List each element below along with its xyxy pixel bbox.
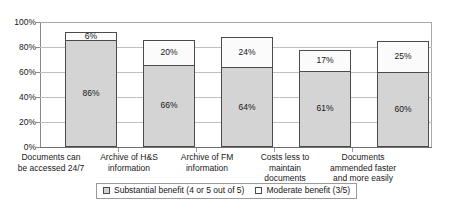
bar-group-archive-fm[interactable]: 24% 64% bbox=[221, 37, 273, 147]
x-category-line: Costs less to bbox=[242, 152, 328, 163]
bar-value-moderate: 25% bbox=[394, 52, 411, 61]
bar-segment-moderate[interactable]: 17% bbox=[299, 50, 351, 71]
legend-swatch-icon bbox=[103, 187, 110, 194]
x-category-line: Archive of FM bbox=[164, 152, 250, 163]
x-category-label-documents-accessed: Documents can be accessed 24/7 bbox=[8, 152, 94, 173]
stacked-bar-chart: 100% 80% 60% 40% 20% 0% 6% 86% bbox=[0, 0, 451, 210]
x-category-line: and more easily bbox=[320, 173, 406, 184]
bar-value-moderate: 24% bbox=[238, 48, 255, 57]
x-category-label-costs-less: Costs less to maintain documents bbox=[242, 152, 328, 184]
bar-value-substantial: 61% bbox=[316, 104, 333, 113]
legend-item-substantial[interactable]: Substantial benefit (4 or 5 out of 5) bbox=[103, 186, 244, 195]
bar-segment-substantial[interactable]: 86% bbox=[65, 40, 117, 148]
y-axis: 100% 80% 60% 40% 20% 0% bbox=[0, 0, 36, 210]
legend-swatch-icon bbox=[255, 187, 262, 194]
bar-value-moderate: 20% bbox=[160, 48, 177, 57]
y-tick-label-40: 40% bbox=[19, 93, 36, 102]
bar-segment-substantial[interactable]: 61% bbox=[299, 71, 351, 147]
bar-segment-moderate[interactable]: 6% bbox=[65, 32, 117, 40]
bar-segment-substantial[interactable]: 66% bbox=[143, 65, 195, 148]
bar-group-documents-ammended[interactable]: 25% 60% bbox=[377, 41, 429, 147]
bar-value-substantial: 60% bbox=[394, 105, 411, 114]
plot-area: 6% 86% 20% 66% 24% 64% bbox=[40, 22, 432, 147]
legend-item-label: Substantial benefit (4 or 5 out of 5) bbox=[114, 186, 244, 195]
chart-legend: Substantial benefit (4 or 5 out of 5) Mo… bbox=[96, 183, 357, 199]
x-category-line: be accessed 24/7 bbox=[8, 163, 94, 174]
x-category-label-archive-fm: Archive of FM information bbox=[164, 152, 250, 173]
x-category-line: Documents can bbox=[8, 152, 94, 163]
bar-segment-substantial[interactable]: 60% bbox=[377, 72, 429, 147]
x-category-line: ammended faster bbox=[320, 163, 406, 174]
legend-item-moderate[interactable]: Moderate benefit (3/5) bbox=[255, 186, 350, 195]
bar-segment-moderate[interactable]: 20% bbox=[143, 40, 195, 65]
bar-group-archive-hs[interactable]: 20% 66% bbox=[143, 40, 195, 148]
bar-segment-substantial[interactable]: 64% bbox=[221, 67, 273, 147]
x-category-line: Documents bbox=[320, 152, 406, 163]
bar-value-substantial: 64% bbox=[238, 103, 255, 112]
y-tick-label-100: 100% bbox=[14, 18, 36, 27]
x-category-line: information bbox=[164, 163, 250, 174]
y-tick-label-80: 80% bbox=[19, 43, 36, 52]
y-tick-label-0: 0% bbox=[24, 143, 36, 152]
plot-frame-right bbox=[431, 22, 432, 147]
bar-value-substantial: 86% bbox=[82, 89, 99, 98]
legend-item-label: Moderate benefit (3/5) bbox=[266, 186, 350, 195]
bar-group-documents-accessed[interactable]: 6% 86% bbox=[65, 32, 117, 147]
x-category-label-archive-hs: Archive of H&S information bbox=[86, 152, 172, 173]
plot-frame-top bbox=[40, 22, 432, 23]
bar-value-moderate: 17% bbox=[316, 56, 333, 65]
bar-group-costs-less[interactable]: 17% 61% bbox=[299, 50, 351, 148]
x-category-line: maintain bbox=[242, 163, 328, 174]
x-category-line: information bbox=[86, 163, 172, 174]
x-category-line: Archive of H&S bbox=[86, 152, 172, 163]
x-category-label-documents-ammended: Documents ammended faster and more easil… bbox=[320, 152, 406, 184]
y-tick-label-20: 20% bbox=[19, 118, 36, 127]
y-tick-label-60: 60% bbox=[19, 68, 36, 77]
x-category-line: documents bbox=[242, 173, 328, 184]
x-axis-line bbox=[40, 147, 432, 148]
bar-segment-moderate[interactable]: 24% bbox=[221, 37, 273, 67]
bar-value-substantial: 66% bbox=[160, 101, 177, 110]
bar-segment-moderate[interactable]: 25% bbox=[377, 41, 429, 72]
